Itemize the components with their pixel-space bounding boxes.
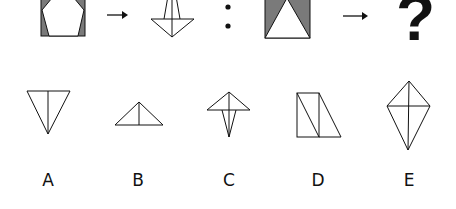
triangle-rectangle-figure xyxy=(265,0,310,38)
option-d-label[interactable]: D xyxy=(303,170,333,190)
option-a-figure[interactable] xyxy=(27,91,70,134)
option-e-figure[interactable] xyxy=(387,81,430,150)
option-a-label[interactable]: A xyxy=(33,170,63,190)
arrow-icon xyxy=(343,12,368,20)
option-e-label[interactable]: E xyxy=(394,170,424,190)
option-b-figure[interactable] xyxy=(115,102,163,125)
question-mark: ? xyxy=(396,0,435,50)
option-d-figure[interactable] xyxy=(297,93,341,137)
option-b-label[interactable]: B xyxy=(123,170,153,190)
option-c-label[interactable]: C xyxy=(214,170,244,190)
folded-kite-figure xyxy=(151,0,194,37)
pentagon-square-figure xyxy=(41,0,85,36)
colon-separator xyxy=(225,4,230,28)
arrow-icon xyxy=(107,11,128,19)
option-c-figure[interactable] xyxy=(207,92,250,137)
